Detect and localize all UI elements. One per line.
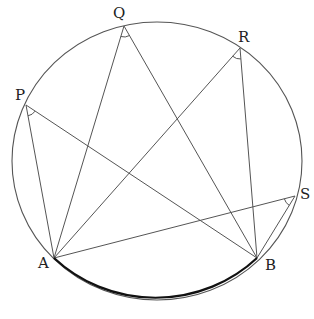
chord-rb <box>240 48 257 258</box>
circle-diagram: A B P Q R S <box>0 0 314 319</box>
label-p: P <box>15 86 25 104</box>
label-b: B <box>265 256 276 274</box>
chord-qa <box>54 26 124 258</box>
angle-mark-r <box>233 56 241 59</box>
chord-sa <box>54 196 295 258</box>
point-labels: A B P Q R S <box>15 4 310 274</box>
angle-mark-q <box>121 36 130 37</box>
arc-ab <box>54 258 257 298</box>
chord-ra <box>54 48 240 258</box>
chords <box>26 26 295 258</box>
angle-marks <box>28 36 289 206</box>
label-s: S <box>300 185 310 203</box>
chord-pa <box>26 105 54 258</box>
angle-mark-s <box>284 199 289 206</box>
label-q: Q <box>113 4 125 22</box>
label-a: A <box>37 254 49 272</box>
label-r: R <box>238 28 250 46</box>
diagram: A B P Q R S <box>0 0 314 319</box>
angle-mark-p <box>28 111 35 116</box>
